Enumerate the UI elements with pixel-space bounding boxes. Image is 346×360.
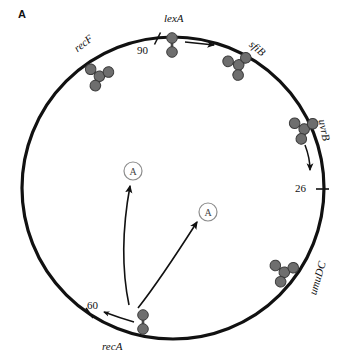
chromosome-circle: [22, 37, 324, 339]
tick-label-60: 60: [87, 299, 98, 311]
protein-complex-recA: [138, 310, 149, 335]
signal-A-upper: A: [124, 162, 142, 180]
protein-complex-sfiB: [222, 52, 254, 82]
protein-complex-umuDC: [267, 258, 300, 289]
arrow-signal-upper: [124, 186, 130, 305]
protein-complex-lexA: [167, 33, 178, 58]
gene-label-recA: recA: [102, 340, 122, 352]
gene-label-lexA: lexA: [164, 12, 184, 24]
arrow-uvrB-down: [305, 145, 310, 170]
protein-complex-recF: [81, 62, 115, 94]
arrow-recA-left: [104, 312, 134, 322]
circular-genome-map: A A: [0, 0, 346, 360]
arrow-signal-lower: [138, 222, 197, 308]
tick-label-90: 90: [137, 44, 148, 56]
signal-A-lower-text: A: [204, 207, 212, 218]
signal-A-lower: A: [199, 203, 217, 221]
signal-A-upper-text: A: [129, 166, 137, 177]
tick-label-26: 26: [295, 182, 306, 194]
